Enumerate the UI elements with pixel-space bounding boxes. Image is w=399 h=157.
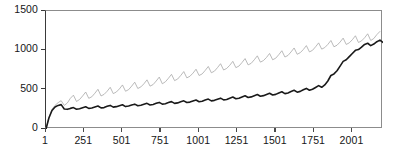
x-tick-label: 1501 [263, 134, 287, 146]
x-tick-label: 1001 [186, 134, 210, 146]
x-tick-label: 1251 [225, 134, 249, 146]
x-tick-mark [236, 128, 237, 132]
x-tick-label: 2001 [340, 134, 364, 146]
x-tick-label: 1751 [301, 134, 325, 146]
x-tick-mark [159, 128, 160, 132]
series-line-upper-series [46, 31, 380, 129]
x-tick-mark [83, 128, 84, 132]
series-line-lower-series [46, 40, 383, 129]
y-tick-label: 1500 [14, 3, 38, 15]
x-tick-mark [45, 128, 46, 132]
x-tick-label: 751 [151, 134, 169, 146]
x-tick-label: 1 [42, 134, 48, 146]
plot-area [45, 10, 382, 128]
y-tick-label: 1000 [14, 42, 38, 54]
y-tick-label: 0 [32, 121, 38, 133]
series-lines [46, 11, 383, 129]
x-tick-label: 501 [113, 134, 131, 146]
x-tick-mark [121, 128, 122, 132]
y-tick-label: 500 [20, 82, 38, 94]
x-tick-label: 251 [74, 134, 92, 146]
x-tick-mark [351, 128, 352, 132]
x-tick-mark [198, 128, 199, 132]
chart-container: 050010001500 125150175110011251150117512… [0, 0, 399, 157]
x-tick-mark [274, 128, 275, 132]
x-tick-mark [313, 128, 314, 132]
